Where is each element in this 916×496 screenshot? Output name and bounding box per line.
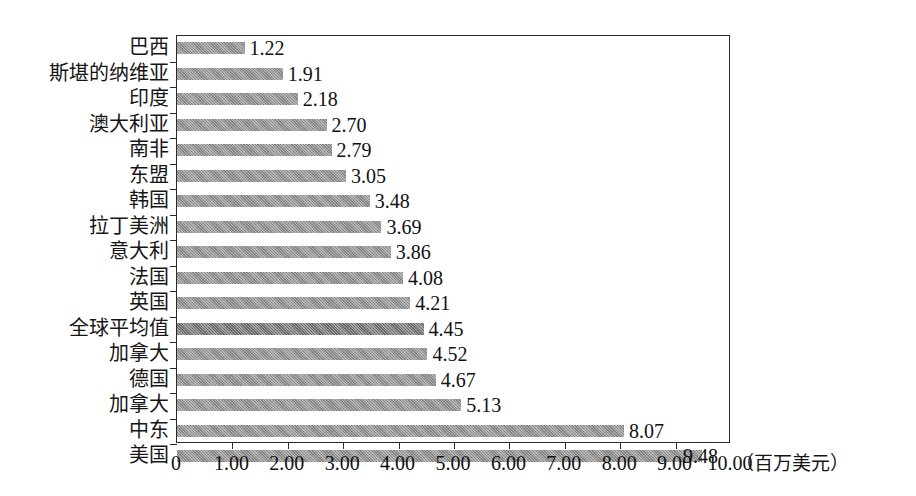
x-axis-tick — [288, 442, 289, 449]
category-label: 韩国 — [129, 188, 169, 214]
x-axis-tick — [343, 442, 344, 449]
bar-value-label: 3.48 — [375, 190, 410, 212]
category-label: 美国 — [129, 443, 169, 469]
bar — [177, 170, 346, 182]
bar — [177, 246, 391, 258]
bars-layer: 1.221.912.182.702.793.053.483.693.864.08… — [177, 36, 729, 442]
bar-value-label: 2.18 — [303, 88, 338, 110]
y-axis-tick — [170, 444, 177, 445]
bar — [177, 195, 370, 207]
category-label: 英国 — [129, 290, 169, 316]
x-axis-tick-labels: 01.002.003.004.005.006.007.008.009.0010.… — [176, 450, 730, 480]
bar-chart: 巴西斯堪的纳维亚印度澳大利亚南非东盟韩国拉丁美洲意大利法国英国全球平均值加拿大德… — [0, 0, 916, 496]
bar-value-label: 1.22 — [250, 37, 285, 59]
x-axis-tick — [454, 442, 455, 449]
x-axis-tick-label: 5.00 — [436, 450, 471, 476]
bar-row: 3.05 — [177, 164, 729, 190]
y-axis-tick — [170, 62, 177, 63]
x-axis-tick-label: 4.00 — [380, 450, 415, 476]
bar — [177, 272, 403, 284]
bar-row: 2.18 — [177, 87, 729, 113]
y-axis-tick — [170, 342, 177, 343]
bar-row: 4.67 — [177, 368, 729, 394]
x-axis-tick — [509, 442, 510, 449]
category-label: 印度 — [129, 86, 169, 112]
category-label: 南非 — [129, 137, 169, 163]
y-axis-tick — [170, 113, 177, 114]
bar-row: 4.52 — [177, 342, 729, 368]
y-axis-tick — [170, 393, 177, 394]
bar-value-label: 4.67 — [441, 369, 476, 391]
category-label: 意大利 — [109, 239, 169, 265]
x-axis-tick — [399, 442, 400, 449]
bar-row: 4.45 — [177, 317, 729, 343]
bar-row: 2.70 — [177, 113, 729, 139]
bar — [177, 119, 327, 131]
bar — [177, 42, 245, 54]
y-axis-tick — [170, 291, 177, 292]
category-label: 中东 — [129, 418, 169, 444]
bar-value-label: 3.69 — [386, 216, 421, 238]
bar-value-label: 4.21 — [415, 292, 450, 314]
bar — [177, 93, 298, 105]
bar — [177, 323, 424, 335]
bar-row: 3.69 — [177, 215, 729, 241]
x-axis-tick — [565, 442, 566, 449]
y-axis-tick — [170, 368, 177, 369]
bar-value-label: 4.08 — [408, 267, 443, 289]
bar-row: 4.21 — [177, 291, 729, 317]
bar — [177, 374, 436, 386]
x-axis-unit-label: （百万美元） — [735, 450, 849, 476]
y-axis-tick — [170, 215, 177, 216]
y-axis-tick — [170, 87, 177, 88]
x-axis-tick-label: 8.00 — [602, 450, 637, 476]
x-axis-tick — [232, 442, 233, 449]
y-axis-tick — [170, 317, 177, 318]
bar-row: 4.08 — [177, 266, 729, 292]
y-axis-tick — [170, 240, 177, 241]
bar-value-label: 3.86 — [396, 241, 431, 263]
x-axis-tick-label: 7.00 — [546, 450, 581, 476]
category-label: 拉丁美洲 — [89, 214, 169, 240]
x-axis-tick-label: 9.00 — [657, 450, 692, 476]
y-axis-tick — [170, 419, 177, 420]
category-label: 法国 — [129, 265, 169, 291]
bar-value-label: 4.52 — [432, 343, 467, 365]
category-label: 澳大利亚 — [89, 112, 169, 138]
bar — [177, 425, 624, 437]
x-axis-tick-label: 0 — [171, 450, 181, 476]
x-axis-tick-label: 6.00 — [491, 450, 526, 476]
x-axis-tick-label: 2.00 — [269, 450, 304, 476]
bar-value-label: 1.91 — [288, 63, 323, 85]
bar-value-label: 5.13 — [466, 394, 501, 416]
bar — [177, 144, 332, 156]
bar-row: 1.22 — [177, 36, 729, 62]
category-axis-labels: 巴西斯堪的纳维亚印度澳大利亚南非东盟韩国拉丁美洲意大利法国英国全球平均值加拿大德… — [0, 35, 172, 443]
bar-row: 2.79 — [177, 138, 729, 164]
y-axis-tick — [170, 138, 177, 139]
bar-value-label: 2.79 — [337, 139, 372, 161]
category-label: 巴西 — [129, 35, 169, 61]
category-label: 斯堪的纳维亚 — [49, 61, 169, 87]
bar-value-label: 2.70 — [332, 114, 367, 136]
bar-value-label: 4.45 — [429, 318, 464, 340]
category-label: 东盟 — [129, 163, 169, 189]
plot-area: 1.221.912.182.702.793.053.483.693.864.08… — [176, 35, 730, 443]
x-axis-tick — [620, 442, 621, 449]
bar-row: 3.48 — [177, 189, 729, 215]
category-label: 德国 — [129, 367, 169, 393]
bar — [177, 348, 427, 360]
x-axis-tick-label: 1.00 — [214, 450, 249, 476]
y-axis-tick — [170, 164, 177, 165]
bar — [177, 297, 410, 309]
category-label: 加拿大 — [109, 392, 169, 418]
bar-row: 5.13 — [177, 393, 729, 419]
bar-row: 1.91 — [177, 62, 729, 88]
x-axis-tick-label: 3.00 — [325, 450, 360, 476]
y-axis-tick — [170, 266, 177, 267]
bar-row: 8.07 — [177, 419, 729, 445]
bar-row: 3.86 — [177, 240, 729, 266]
y-axis-tick — [170, 189, 177, 190]
category-label: 加拿大 — [109, 341, 169, 367]
x-axis-tick — [676, 442, 677, 449]
